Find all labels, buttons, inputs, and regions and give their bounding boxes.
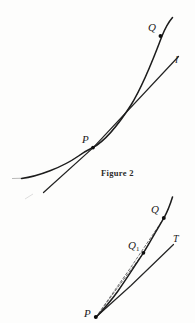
tangent-line-T-bottom bbox=[96, 245, 174, 318]
figures-canvas bbox=[0, 0, 195, 323]
point-label-Q1-base: Q bbox=[128, 239, 136, 251]
point-label-Q1-subscript: 1 bbox=[136, 245, 139, 252]
point-P-top bbox=[91, 146, 95, 150]
point-Q1-bottom bbox=[142, 251, 146, 255]
point-label-l-top: l bbox=[175, 54, 178, 65]
secant-dashed-PQ-bottom bbox=[96, 218, 164, 317]
point-Q-bottom bbox=[162, 216, 166, 220]
point-label-Q-bottom: Q bbox=[151, 204, 159, 215]
curve-top bbox=[22, 18, 173, 179]
scan-artifacts bbox=[12, 178, 33, 199]
point-label-Q-top: Q bbox=[148, 22, 156, 33]
figure-page: Q l P Q Q1 T P Figure 2 bbox=[0, 0, 195, 323]
point-label-P-bottom: P bbox=[84, 308, 91, 319]
figure-3-bottom-graphics bbox=[94, 197, 174, 319]
point-label-T-bottom: T bbox=[173, 234, 179, 244]
point-Q-top bbox=[159, 34, 163, 38]
point-label-Q1-bottom: Q1 bbox=[128, 240, 139, 253]
point-label-P-top: P bbox=[82, 134, 89, 145]
point-P-bottom bbox=[94, 315, 98, 319]
figure-caption: Figure 2 bbox=[101, 168, 161, 178]
